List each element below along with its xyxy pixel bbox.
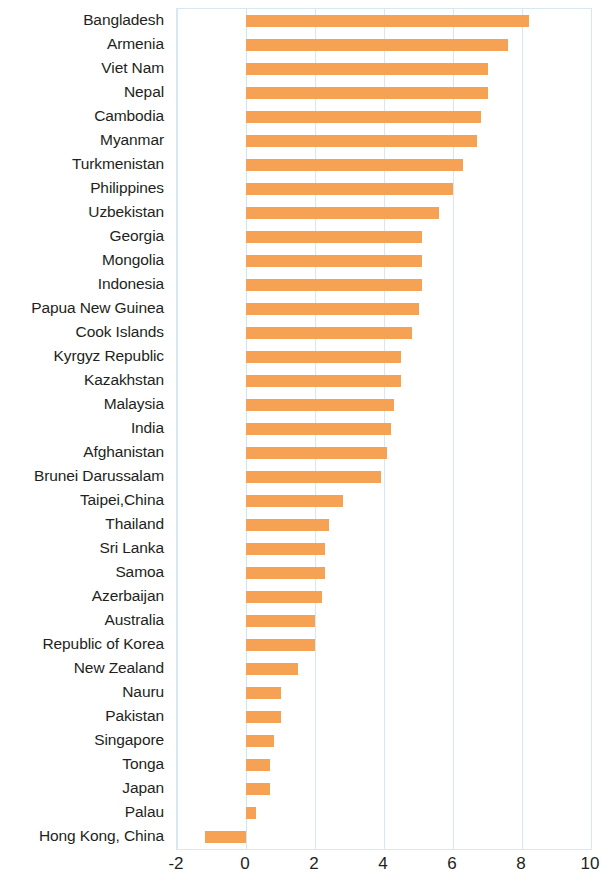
category-label: Samoa bbox=[0, 560, 170, 584]
bar bbox=[246, 399, 394, 411]
category-label: Australia bbox=[0, 608, 170, 632]
bar-row bbox=[177, 297, 591, 321]
category-label: Thailand bbox=[0, 512, 170, 536]
category-label: Uzbekistan bbox=[0, 200, 170, 224]
x-tick-label: 4 bbox=[378, 854, 387, 874]
category-label: Palau bbox=[0, 800, 170, 824]
category-axis-labels: BangladeshArmeniaViet NamNepalCambodiaMy… bbox=[0, 8, 170, 848]
category-label: Armenia bbox=[0, 32, 170, 56]
category-label: Papua New Guinea bbox=[0, 296, 170, 320]
bar bbox=[246, 423, 391, 435]
category-label: Japan bbox=[0, 776, 170, 800]
bar bbox=[246, 447, 387, 459]
bar bbox=[246, 711, 281, 723]
category-label: Republic of Korea bbox=[0, 632, 170, 656]
bar-row bbox=[177, 465, 591, 489]
category-label: Malaysia bbox=[0, 392, 170, 416]
bar bbox=[246, 567, 325, 579]
bar bbox=[246, 591, 322, 603]
bar-row bbox=[177, 129, 591, 153]
category-label: Bangladesh bbox=[0, 8, 170, 32]
bar-chart: BangladeshArmeniaViet NamNepalCambodiaMy… bbox=[0, 0, 602, 887]
gridline bbox=[591, 9, 592, 849]
category-label: Taipei,China bbox=[0, 488, 170, 512]
bar-row bbox=[177, 369, 591, 393]
bar bbox=[246, 111, 481, 123]
category-label: Indonesia bbox=[0, 272, 170, 296]
bar-row bbox=[177, 321, 591, 345]
bar-row bbox=[177, 177, 591, 201]
bar bbox=[246, 207, 439, 219]
category-label: Mongolia bbox=[0, 248, 170, 272]
bar-row bbox=[177, 105, 591, 129]
bar bbox=[246, 135, 477, 147]
bar bbox=[246, 15, 529, 27]
bar bbox=[246, 519, 329, 531]
category-label: Nauru bbox=[0, 680, 170, 704]
category-label: Brunei Darussalam bbox=[0, 464, 170, 488]
bar-row bbox=[177, 81, 591, 105]
category-label: New Zealand bbox=[0, 656, 170, 680]
bar-row bbox=[177, 33, 591, 57]
category-label: Singapore bbox=[0, 728, 170, 752]
bar-row bbox=[177, 153, 591, 177]
category-label: Pakistan bbox=[0, 704, 170, 728]
bar-row bbox=[177, 441, 591, 465]
category-label: Afghanistan bbox=[0, 440, 170, 464]
x-axis: -20246810 bbox=[176, 850, 590, 880]
category-label: Tonga bbox=[0, 752, 170, 776]
bar bbox=[246, 255, 422, 267]
bar-row bbox=[177, 345, 591, 369]
bar-row bbox=[177, 489, 591, 513]
bar bbox=[246, 615, 315, 627]
bar-row bbox=[177, 753, 591, 777]
bar-row bbox=[177, 705, 591, 729]
bar bbox=[246, 807, 256, 819]
x-tick-label: -2 bbox=[168, 854, 183, 874]
plot-area bbox=[176, 8, 592, 850]
category-label: Kazakhstan bbox=[0, 368, 170, 392]
bar bbox=[246, 639, 315, 651]
bar-row bbox=[177, 633, 591, 657]
bar-row bbox=[177, 417, 591, 441]
category-label: Georgia bbox=[0, 224, 170, 248]
category-label: Cook Islands bbox=[0, 320, 170, 344]
category-label: Kyrgyz Republic bbox=[0, 344, 170, 368]
bar-row bbox=[177, 537, 591, 561]
bar bbox=[246, 687, 281, 699]
category-label: Philippines bbox=[0, 176, 170, 200]
bar-row bbox=[177, 585, 591, 609]
category-label: Sri Lanka bbox=[0, 536, 170, 560]
bar bbox=[246, 279, 422, 291]
x-tick-label: 6 bbox=[447, 854, 456, 874]
bar bbox=[246, 663, 298, 675]
x-tick-label: 0 bbox=[240, 854, 249, 874]
category-label: Nepal bbox=[0, 80, 170, 104]
bar bbox=[246, 543, 325, 555]
category-label: Turkmenistan bbox=[0, 152, 170, 176]
bar-row bbox=[177, 561, 591, 585]
bar bbox=[246, 303, 419, 315]
category-label: Viet Nam bbox=[0, 56, 170, 80]
bar bbox=[246, 759, 270, 771]
bar bbox=[246, 183, 453, 195]
bar bbox=[246, 735, 274, 747]
bar bbox=[246, 783, 270, 795]
bar bbox=[246, 351, 401, 363]
bar bbox=[246, 39, 508, 51]
bar-row bbox=[177, 57, 591, 81]
bar-row bbox=[177, 201, 591, 225]
bar-row bbox=[177, 609, 591, 633]
bar bbox=[246, 495, 343, 507]
bar-row bbox=[177, 729, 591, 753]
bar-row bbox=[177, 225, 591, 249]
category-label: India bbox=[0, 416, 170, 440]
bar bbox=[246, 231, 422, 243]
bar bbox=[246, 375, 401, 387]
bar bbox=[205, 831, 246, 843]
bar-row bbox=[177, 657, 591, 681]
category-label: Azerbaijan bbox=[0, 584, 170, 608]
bar-series bbox=[177, 9, 591, 849]
bar-row bbox=[177, 393, 591, 417]
category-label: Cambodia bbox=[0, 104, 170, 128]
